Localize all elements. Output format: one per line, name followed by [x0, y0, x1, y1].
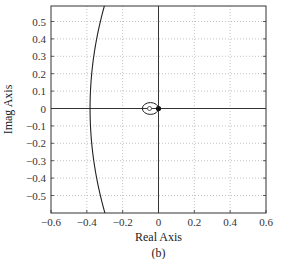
x-tick-label: 0.6: [259, 216, 273, 228]
y-tick-label: 0: [41, 103, 47, 115]
y-tick-label: −0.2: [26, 137, 46, 149]
x-tick-label: −0.6: [41, 216, 61, 228]
y-tick-label: −0.4: [26, 172, 46, 184]
y-tick-label: 0.3: [32, 50, 46, 62]
x-tick-label: −0.4: [77, 216, 97, 228]
open-circle-marker: [148, 107, 152, 111]
y-tick-label: 0.5: [32, 16, 46, 28]
figure-caption: (b): [152, 246, 166, 259]
x-tick-label: 0.2: [187, 216, 201, 228]
x-axis-label: Real Axis: [135, 230, 182, 244]
nyquist-plot: −0.6−0.4−0.200.20.40.60.50.40.30.20.10−0…: [0, 0, 283, 259]
x-tick-label: 0.4: [223, 216, 237, 228]
y-tick-label: 0.4: [32, 33, 46, 45]
y-tick-label: 0.2: [32, 68, 46, 80]
x-tick-label: −0.2: [113, 216, 133, 228]
y-tick-label: −0.5: [26, 190, 46, 202]
y-axis-label: Imag Axis: [1, 84, 15, 134]
y-tick-label: 0.1: [32, 85, 46, 97]
x-tick-label: 0: [156, 216, 162, 228]
y-tick-label: −0.1: [26, 120, 46, 132]
y-tick-label: −0.3: [26, 155, 46, 167]
filled-dot-marker: [156, 106, 161, 111]
